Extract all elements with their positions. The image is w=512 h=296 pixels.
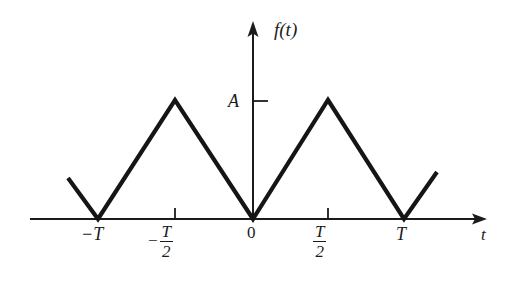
fraction-denominator: 2 <box>160 242 173 260</box>
fraction: T 2 <box>313 223 326 260</box>
amplitude-label: A <box>228 92 239 110</box>
x-tick-label-pos-half-T: T 2 <box>313 223 326 260</box>
x-axis-label: t <box>481 226 486 243</box>
fraction-numerator: T <box>160 223 173 241</box>
minus-sign: − <box>148 232 158 251</box>
fraction-numerator: T <box>313 223 326 241</box>
x-tick-label-neg-half-T: − T 2 <box>148 223 173 260</box>
waveform-plot-svg <box>0 0 512 296</box>
fraction: T 2 <box>160 223 173 260</box>
x-tick-label-neg-T: −T <box>81 225 103 243</box>
y-axis-label: f(t) <box>274 20 297 39</box>
fraction-denominator: 2 <box>313 242 326 260</box>
origin-label: 0 <box>247 224 256 241</box>
triangular-waveform-figure: f(t) A 0 −T T t − T 2 T 2 <box>0 0 512 296</box>
x-tick-label-pos-T: T <box>396 225 406 243</box>
